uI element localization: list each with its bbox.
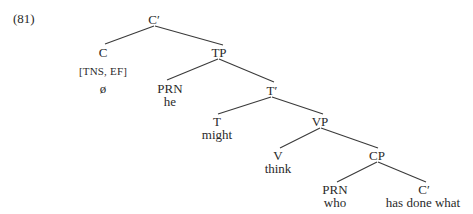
tree-edge-vp-cp [321,128,378,148]
tree-node-c-null: ø [100,82,107,95]
tree-edge-tbar-vp [272,97,323,114]
tree-node-c-features: [TNS, EF] [79,65,127,78]
tree-node-has-done-what: has done what [386,196,460,209]
tree-edges [0,0,473,214]
tree-node-who: who [324,196,346,209]
tree-node-c: C [99,46,108,59]
example-number: (81) [13,12,35,25]
tree-node-might: might [202,128,232,141]
tree-edge-vp-v [280,128,320,148]
tree-edge-tp-tbar [219,59,274,82]
tree-node-he: he [164,95,176,108]
syntax-tree-diagram: (81) C′C[TNS, EF]øTPPRNheT′TmightVPVthin… [0,0,473,214]
tree-edge-cp-cbar_low [378,162,426,182]
tree-node-cp: CP [369,149,385,162]
tree-edge-tp-prn_he [167,59,218,80]
tree-node-vp: VP [312,115,329,128]
tree-edge-cp-prn_who [337,162,377,182]
tree-edge-tbar-t [218,97,271,114]
tree-node-tbar: T′ [267,84,278,97]
tree-node-tp: TP [211,46,226,59]
tree-node-cbar-root: C′ [148,13,160,26]
tree-edge-cbar_root-tp [155,26,223,45]
tree-node-think: think [265,162,292,175]
tree-edge-cbar_root-c [105,26,154,44]
